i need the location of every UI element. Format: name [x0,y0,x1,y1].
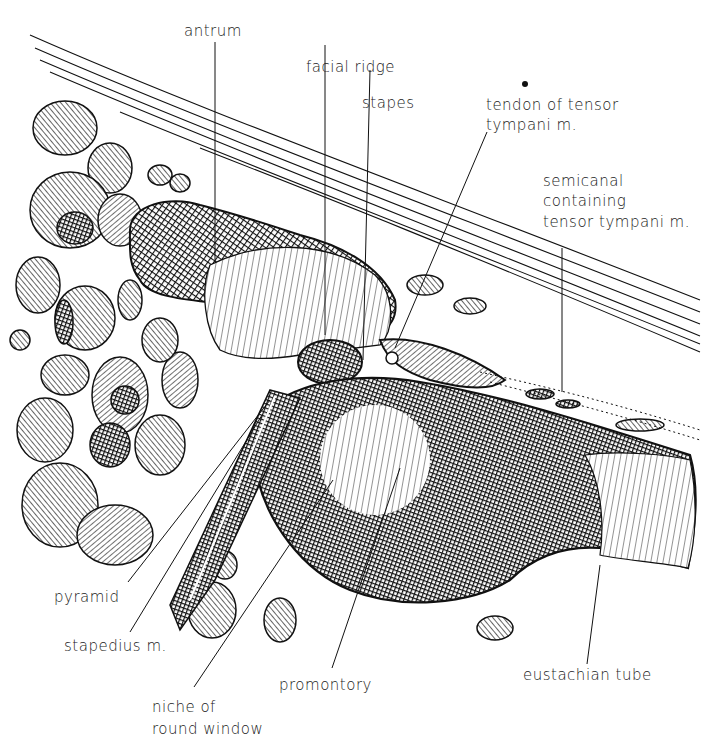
promontory-highlight [320,405,430,515]
label-stapes: stapes [362,94,414,113]
anatomy-diagram: antrum facial ridge stapes tendon of ten… [0,0,710,745]
label-niche-line1: niche of [152,698,216,717]
label-semicanal-line1: semicanal [543,172,624,191]
label-antrum: antrum [184,22,242,41]
oval-window [298,340,362,384]
label-stapedius: stapedius m. [64,637,167,656]
label-pyramid: pyramid [54,588,120,607]
label-promontory: promontory [279,676,372,695]
label-niche-line2: round window [152,720,263,739]
label-tendon-line2: tympani m. [486,116,577,135]
label-eustachian-tube: eustachian tube [523,666,652,685]
label-tendon-line1: tendon of tensor [486,96,619,115]
ink-speck [522,81,528,87]
label-facial-ridge: facial ridge [306,58,395,77]
label-semicanal-line3: tensor tympani m. [543,213,690,232]
label-semicanal-line2: containing [543,192,626,211]
eustachian-tube-opening [585,453,695,568]
